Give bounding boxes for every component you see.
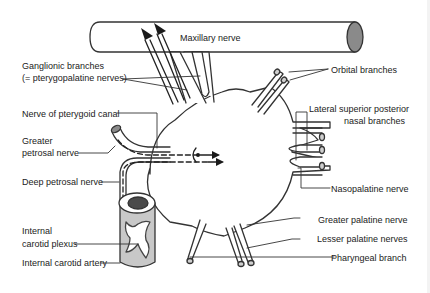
label-ganglionic-branches-alt: (= pterygopalatine nerves) — [22, 73, 127, 83]
ganglionic-branches-shape — [170, 52, 214, 103]
label-internal-carotid-artery: Internal carotid artery — [22, 258, 108, 268]
label-nasal-branches: nasal branches — [344, 116, 406, 126]
label-lesser-palatine-nerves: Lesser palatine nerves — [317, 234, 408, 244]
pterygopalatine-ganglion-diagram: Maxillary nerve Ganglionic branches (= p… — [0, 0, 430, 293]
label-orbital-branches: Orbital branches — [331, 65, 398, 75]
label-pharyngeal-branch: Pharyngeal branch — [331, 253, 407, 263]
label-greater-petrosal-line2: petrosal nerve — [22, 148, 79, 158]
internal-carotid-artery-shape — [119, 193, 155, 267]
label-nasopalatine-nerve: Nasopalatine nerve — [331, 184, 409, 194]
label-lateral-superior-posterior: Lateral superior posterior — [309, 104, 409, 114]
label-greater-palatine-nerve: Greater palatine nerve — [318, 215, 408, 225]
label-nerve-of-pterygoid-canal: Nerve of pterygoid canal — [22, 109, 120, 119]
label-maxillary-nerve: Maxillary nerve — [180, 33, 241, 43]
label-deep-petrosal-nerve: Deep petrosal nerve — [22, 177, 103, 187]
label-ganglionic-branches: Ganglionic branches — [22, 61, 105, 71]
label-internal-carotid-plexus-line2: carotid plexus — [22, 239, 78, 249]
greater-petrosal-cut-end — [110, 124, 122, 134]
label-greater-petrosal-line1: Greater — [22, 136, 53, 146]
label-internal-carotid-plexus-line1: Internal — [22, 226, 52, 236]
